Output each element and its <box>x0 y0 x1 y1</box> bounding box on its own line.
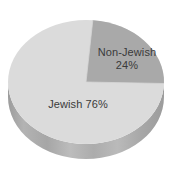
slice-label-jewish: Jewish 76% <box>39 98 117 111</box>
pie-chart: Non-Jewish 24% Jewish 76% <box>0 0 169 170</box>
slice-label-non-jewish-name: Non-Jewish <box>92 46 162 59</box>
slice-label-non-jewish: Non-Jewish 24% <box>92 46 162 72</box>
slice-label-non-jewish-value: 24% <box>92 59 162 72</box>
pie-3d-graphic <box>0 0 169 170</box>
